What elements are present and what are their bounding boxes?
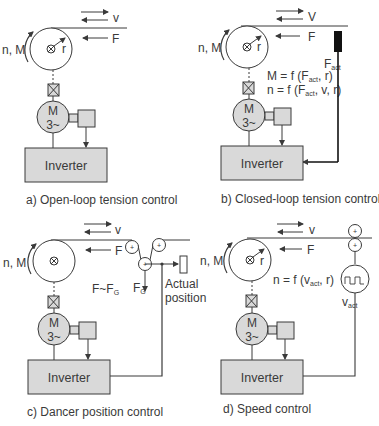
svg-text:Inverter: Inverter bbox=[45, 159, 87, 173]
svg-text:Inverter: Inverter bbox=[241, 157, 283, 171]
caption-a: a) Open-loop tension control bbox=[26, 193, 177, 207]
motor: M 3~ bbox=[38, 313, 70, 345]
svg-text:Inverter: Inverter bbox=[48, 371, 90, 385]
svg-text:3~: 3~ bbox=[245, 330, 259, 344]
svg-text:+: + bbox=[353, 242, 357, 249]
svg-text:M: M bbox=[247, 316, 257, 330]
coupling-icon bbox=[48, 84, 59, 96]
force-relation: F~FG bbox=[92, 282, 119, 296]
encoder bbox=[69, 110, 95, 147]
panel-c: v F + + + FG F~FG Actual position bbox=[3, 223, 206, 419]
winding-roll bbox=[33, 240, 75, 282]
inverter: Inverter bbox=[221, 360, 303, 394]
rotation-label: n, M bbox=[198, 41, 221, 55]
coupling-icon bbox=[243, 82, 254, 94]
motor: M 3~ bbox=[236, 313, 268, 345]
pulse-generator-icon bbox=[341, 265, 369, 293]
dancer-force-label: FG bbox=[133, 281, 146, 295]
measuring-roller-bottom: + bbox=[349, 239, 362, 252]
rotation-label: n, M bbox=[3, 256, 26, 270]
inverter: Inverter bbox=[221, 146, 303, 180]
inverter: Inverter bbox=[28, 360, 110, 394]
caption-b: b) Closed-loop tension control bbox=[221, 192, 379, 206]
caption-d: d) Speed control bbox=[223, 402, 311, 416]
speed-label: v bbox=[113, 11, 119, 25]
coupling-icon bbox=[48, 296, 59, 308]
panel-b: V F r n, M Fact M = f (Fact, r) n = f (F… bbox=[198, 10, 379, 206]
motor: M 3~ bbox=[37, 101, 69, 133]
svg-text:3~: 3~ bbox=[47, 330, 61, 344]
tension-control-diagram: v F r n, M M 3~ bbox=[0, 0, 379, 426]
inverter: Inverter bbox=[25, 148, 107, 182]
svg-text:M: M bbox=[48, 104, 58, 118]
svg-text:M: M bbox=[244, 102, 254, 116]
speed-equation: n = f (vact, r) bbox=[273, 273, 334, 287]
speed-arrows: v bbox=[81, 11, 119, 25]
caption-c: c) Dancer position control bbox=[27, 405, 163, 419]
force-label: F bbox=[112, 32, 119, 46]
guide-roller-1: + bbox=[126, 241, 139, 254]
guide-roller-2: + bbox=[153, 239, 166, 252]
measuring-roller-top: + bbox=[349, 225, 362, 238]
svg-text:3~: 3~ bbox=[46, 118, 60, 132]
winding-roll: r bbox=[226, 26, 268, 68]
svg-text:r: r bbox=[260, 254, 264, 268]
force-label: F bbox=[307, 243, 314, 257]
coupling-icon bbox=[246, 295, 257, 307]
rotation-label: n, M bbox=[200, 254, 223, 268]
panel-d: v F r n, M n = f (vact, r) + + vact bbox=[200, 223, 372, 416]
force-arrow: F bbox=[83, 32, 119, 46]
position-sensor bbox=[180, 256, 187, 273]
force-label: F bbox=[308, 30, 315, 44]
speed-label: V bbox=[308, 10, 316, 24]
svg-text:3~: 3~ bbox=[242, 116, 256, 130]
winding-roll: r bbox=[229, 239, 271, 281]
svg-text:+: + bbox=[353, 228, 357, 235]
rotation-label: n, M bbox=[2, 43, 25, 57]
svg-text:+: + bbox=[130, 244, 134, 251]
svg-text:Inverter: Inverter bbox=[241, 371, 283, 385]
force-label: F bbox=[115, 244, 122, 258]
svg-text:M: M bbox=[49, 316, 59, 330]
motor: M 3~ bbox=[233, 99, 265, 131]
radius-label: r bbox=[62, 42, 66, 56]
encoder bbox=[268, 322, 294, 359]
svg-text:r: r bbox=[257, 40, 261, 54]
svg-text:+: + bbox=[157, 242, 161, 249]
svg-text:Actual: Actual bbox=[165, 277, 198, 291]
encoder bbox=[70, 322, 96, 359]
winding-roll: r bbox=[30, 28, 72, 70]
tension-sensor bbox=[334, 31, 342, 52]
speed-equation: n = f (Fact, v, r) bbox=[267, 83, 341, 97]
encoder bbox=[265, 108, 291, 145]
torque-equation: M = f (Fact, r) bbox=[267, 69, 333, 83]
panel-a: v F r n, M M 3~ bbox=[2, 11, 177, 207]
speed-label: v bbox=[309, 223, 315, 237]
svg-text:position: position bbox=[165, 291, 206, 305]
speed-label: v bbox=[115, 223, 121, 237]
